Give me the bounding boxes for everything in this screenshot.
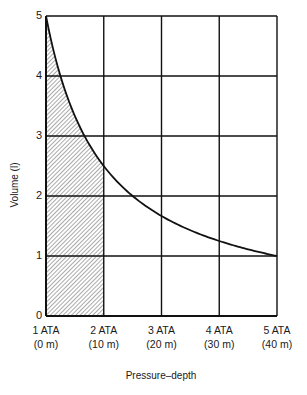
x-axis-label: Pressure–depth: [126, 370, 197, 381]
x-tick-label: 2 ATA(10 m): [74, 323, 134, 351]
x-tick-label: 3 ATA(20 m): [132, 323, 192, 351]
y-tick-label: 5: [30, 9, 42, 21]
y-tick-label: 4: [30, 69, 42, 81]
y-tick-label: 0: [30, 309, 42, 321]
x-tick-label: 5 ATA(40 m): [247, 323, 307, 351]
x-tick-label: 4 ATA(30 m): [189, 323, 249, 351]
y-tick-label: 2: [30, 189, 42, 201]
y-tick-label: 1: [30, 249, 42, 261]
shaded-region: [46, 16, 104, 316]
y-tick-label: 3: [30, 129, 42, 141]
x-tick-label: 1 ATA(0 m): [16, 323, 76, 351]
y-axis-label: Volume (l): [9, 162, 20, 207]
